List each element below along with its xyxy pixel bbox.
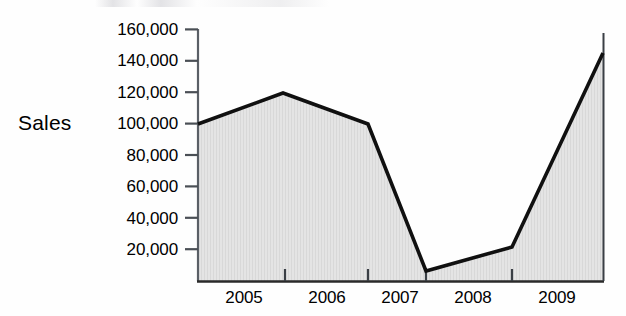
x-tick-label-2008: 2008	[428, 288, 518, 308]
x-tick-label-2005: 2005	[199, 288, 289, 308]
y-axis-tick-marks	[185, 29, 198, 249]
sales-area-chart-figure: Sales 160,000 140,000 120,000 100,000 80…	[0, 0, 626, 316]
plot-area	[0, 0, 626, 316]
series-area-fill	[198, 53, 603, 281]
x-tick-label-2009: 2009	[512, 288, 602, 308]
